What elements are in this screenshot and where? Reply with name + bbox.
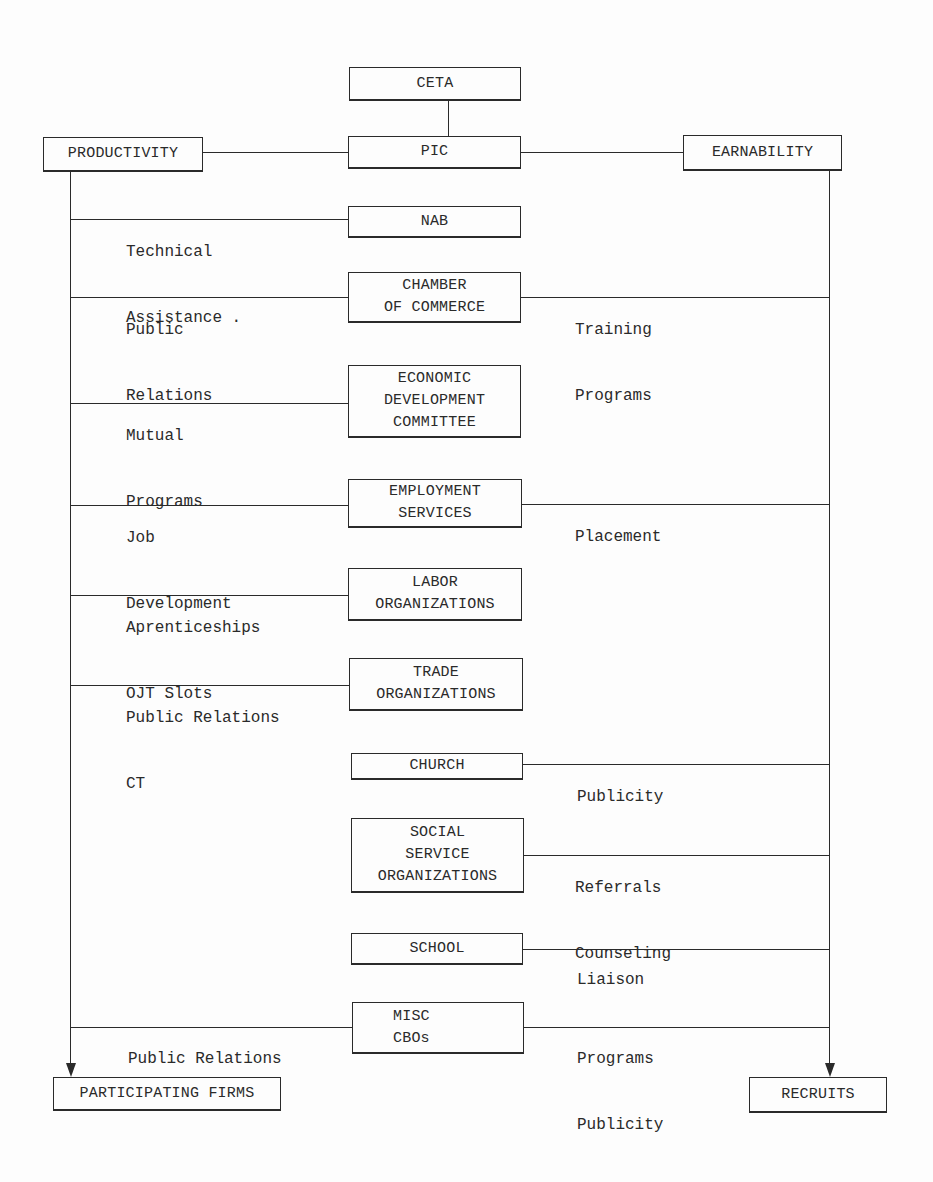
employment-right-label: Placement — [575, 482, 661, 592]
social-right-connector — [524, 855, 830, 856]
productivity-spine — [70, 172, 71, 1065]
chamber-right-connector — [521, 297, 830, 298]
church-right-connector — [523, 764, 830, 765]
school-box: SCHOOL — [351, 933, 523, 965]
church-box: CHURCH — [351, 753, 523, 780]
pic-label: PIC — [421, 141, 449, 163]
school-right-connector — [523, 949, 830, 950]
productivity-pic-connector — [203, 152, 349, 153]
productivity-label: PRODUCTIVITY — [68, 143, 178, 165]
misc-right-label: Programs Publicity — [577, 1004, 663, 1180]
arrow-down-icon — [66, 1063, 76, 1077]
participating-firms-box: PARTICIPATING FIRMS — [53, 1077, 281, 1111]
trade-left-label: Public Relations CT — [126, 663, 280, 839]
nab-box: NAB — [348, 206, 521, 238]
chamber-of-commerce-box: CHAMBER OF COMMERCE — [348, 272, 521, 323]
employment-services-box: EMPLOYMENT SERVICES — [348, 479, 522, 528]
pic-earnability-connector — [521, 152, 684, 153]
social-service-organizations-box: SOCIAL SERVICE ORGANIZATIONS — [351, 818, 524, 893]
ceta-label: CETA — [417, 73, 454, 95]
ceta-pic-connector — [448, 100, 449, 137]
economic-development-committee-box: ECONOMIC DEVELOPMENT COMMITTEE — [348, 365, 521, 438]
chamber-right-label: Training Programs — [575, 275, 652, 451]
recruits-box: RECRUITS — [749, 1077, 887, 1113]
org-flow-diagram: CETA PIC PRODUCTIVITY EARNABILITY Techni… — [0, 0, 933, 1182]
earnability-box: EARNABILITY — [683, 135, 842, 171]
earnability-spine — [829, 171, 830, 1065]
productivity-box: PRODUCTIVITY — [43, 137, 203, 172]
misc-right-connector — [524, 1027, 830, 1028]
labor-organizations-box: LABOR ORGANIZATIONS — [348, 568, 522, 621]
employment-right-connector — [522, 504, 830, 505]
arrow-down-icon — [825, 1063, 835, 1077]
earnability-label: EARNABILITY — [712, 142, 813, 164]
trade-organizations-box: TRADE ORGANIZATIONS — [349, 658, 523, 711]
pic-box: PIC — [348, 136, 521, 169]
misc-cbos-box: MISC CBOs — [352, 1002, 524, 1054]
ceta-box: CETA — [349, 67, 521, 101]
